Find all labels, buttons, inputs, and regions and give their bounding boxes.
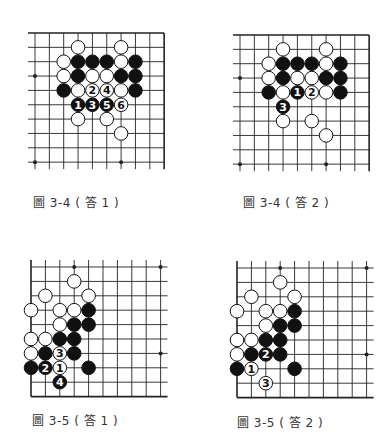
black-stone xyxy=(288,362,302,376)
white-stone xyxy=(230,348,244,362)
white-stone-move-3: 3 xyxy=(259,376,273,390)
black-stone xyxy=(288,304,302,318)
caption-fig-3-5-answer-2: 圖 3-5 ( 答 2 ) xyxy=(237,413,323,430)
black-stone xyxy=(67,347,81,361)
white-stone xyxy=(230,333,244,347)
black-stone xyxy=(273,319,287,333)
svg-text:3: 3 xyxy=(89,99,97,112)
black-stone xyxy=(319,71,333,85)
white-stone xyxy=(259,304,273,318)
star-point-icon xyxy=(33,160,37,164)
black-stone xyxy=(262,86,276,100)
black-stone-move-4: 4 xyxy=(53,375,67,389)
svg-text:1: 1 xyxy=(74,99,82,112)
black-stone xyxy=(71,55,85,69)
star-point-icon xyxy=(33,74,37,78)
caption-fig-3-4-answer-2: 圖 3-4 ( 答 2 ) xyxy=(243,193,329,210)
white-stone xyxy=(24,347,38,361)
black-stone-move-1: 1 xyxy=(291,86,305,100)
black-stone xyxy=(39,347,53,361)
white-stone xyxy=(262,71,276,85)
white-stone xyxy=(276,43,290,57)
white-stone xyxy=(24,332,38,346)
white-stone xyxy=(57,55,71,69)
white-stone xyxy=(71,84,85,98)
black-stone xyxy=(67,332,81,346)
black-stone xyxy=(129,69,143,83)
white-stone xyxy=(319,57,333,71)
white-stone xyxy=(305,71,319,85)
white-stone xyxy=(100,69,114,83)
white-stone xyxy=(273,304,287,318)
white-stone-move-1: 1 xyxy=(245,362,259,376)
go-diagram-fig-3-5-answer-1: 3214 xyxy=(21,257,171,411)
black-stone xyxy=(276,57,290,71)
white-stone-move-3: 3 xyxy=(53,347,67,361)
white-stone xyxy=(319,129,333,143)
black-stone xyxy=(334,57,348,71)
white-stone xyxy=(24,303,38,317)
white-stone xyxy=(114,41,128,55)
caption-fig-3-4-answer-1: 圖 3-4 ( 答 1 ) xyxy=(33,193,119,210)
svg-text:2: 2 xyxy=(308,86,316,99)
white-stone xyxy=(71,41,85,55)
caption-fig-3-5-answer-1: 圖 3-5 ( 答 1 ) xyxy=(32,411,118,428)
go-board-grid: 123 xyxy=(230,25,379,174)
white-stone xyxy=(245,333,259,347)
white-stone-move-1: 1 xyxy=(53,361,67,375)
star-point-icon xyxy=(72,265,76,269)
white-stone-move-2: 2 xyxy=(305,86,319,100)
white-stone xyxy=(291,71,305,85)
black-stone xyxy=(67,318,81,332)
svg-text:4: 4 xyxy=(56,376,64,389)
star-point-icon xyxy=(238,76,242,80)
black-stone-move-2: 2 xyxy=(259,348,273,362)
white-stone xyxy=(319,43,333,57)
black-stone xyxy=(291,57,305,71)
go-board-grid: 241356 xyxy=(25,23,174,172)
black-stone xyxy=(82,361,96,375)
black-stone xyxy=(305,57,319,71)
svg-text:2: 2 xyxy=(262,348,270,361)
black-stone xyxy=(276,71,290,85)
svg-text:3: 3 xyxy=(56,347,64,360)
go-board-grid: 213 xyxy=(227,258,377,408)
white-stone-move-2: 2 xyxy=(86,84,100,98)
white-stone xyxy=(276,114,290,128)
white-stone xyxy=(114,55,128,69)
white-stone xyxy=(288,290,302,304)
black-stone xyxy=(334,86,348,100)
white-stone xyxy=(67,275,81,289)
white-stone xyxy=(319,86,333,100)
star-point-icon xyxy=(324,162,328,166)
black-stone-move-2: 2 xyxy=(39,361,53,375)
black-stone xyxy=(71,69,85,83)
white-stone xyxy=(57,69,71,83)
star-point-icon xyxy=(238,162,242,166)
svg-text:3: 3 xyxy=(279,101,287,114)
white-stone xyxy=(86,69,100,83)
white-stone xyxy=(82,289,96,303)
black-stone xyxy=(245,348,259,362)
black-stone-move-3: 3 xyxy=(86,98,100,112)
black-stone xyxy=(24,361,38,375)
svg-text:5: 5 xyxy=(103,99,111,112)
svg-text:2: 2 xyxy=(89,84,97,97)
black-stone xyxy=(82,303,96,317)
black-stone xyxy=(259,333,273,347)
white-stone xyxy=(39,289,53,303)
svg-text:6: 6 xyxy=(117,99,125,112)
white-stone xyxy=(273,276,287,290)
go-diagram-fig-3-4-answer-1: 241356 xyxy=(25,23,174,176)
star-point-icon xyxy=(365,266,369,270)
star-point-icon xyxy=(159,351,163,355)
black-stone xyxy=(57,84,71,98)
white-stone xyxy=(100,112,114,126)
white-stone xyxy=(53,318,67,332)
white-stone xyxy=(39,332,53,346)
star-point-icon xyxy=(119,160,123,164)
white-stone-move-4: 4 xyxy=(100,84,114,98)
svg-text:1: 1 xyxy=(294,86,302,99)
black-stone xyxy=(334,71,348,85)
white-stone xyxy=(276,86,290,100)
